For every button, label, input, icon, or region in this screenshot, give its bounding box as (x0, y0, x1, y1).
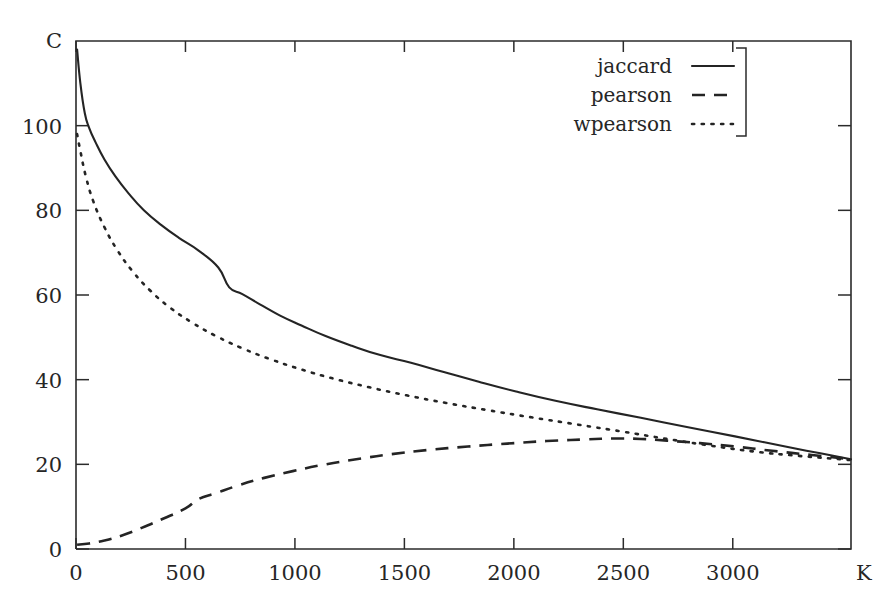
series-pearson (77, 438, 851, 544)
legend-label-wpearson: wpearson (574, 112, 673, 136)
legend-bracket (736, 48, 746, 136)
x-tick-label: 500 (165, 561, 205, 585)
x-tick-label: 2500 (597, 561, 650, 585)
x-tick-label: 1000 (268, 561, 321, 585)
axis-frame (76, 41, 851, 549)
x-axis-label: K (856, 561, 872, 585)
y-tick-label: 60 (35, 284, 62, 308)
line-chart: 050010001500200025003000 020406080100 C … (0, 0, 892, 615)
x-tick-label: 0 (69, 561, 82, 585)
y-tick-label: 100 (22, 115, 62, 139)
x-tick-label: 2000 (487, 561, 540, 585)
y-tick-label: 80 (35, 199, 62, 223)
y-tick-label: 0 (49, 538, 62, 562)
x-tick-label: 3000 (706, 561, 759, 585)
series-jaccard (77, 49, 851, 459)
y-tick-label: 40 (35, 369, 62, 393)
chart-legend: jaccardpearsonwpearson (574, 48, 746, 136)
legend-label-jaccard: jaccard (595, 54, 672, 78)
y-tick-label: 20 (35, 453, 62, 477)
data-series-group (77, 49, 851, 544)
legend-label-pearson: pearson (591, 83, 672, 107)
chart-figure: 050010001500200025003000 020406080100 C … (0, 0, 892, 615)
x-tick-label: 1500 (378, 561, 431, 585)
plot-frame (76, 41, 851, 549)
y-axis-ticks: 020406080100 (22, 115, 851, 562)
y-axis-label: C (46, 29, 62, 53)
series-wpearson (77, 134, 851, 460)
